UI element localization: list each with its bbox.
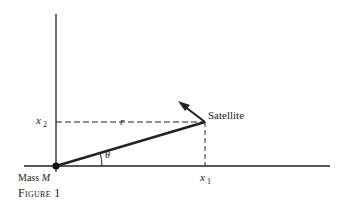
mass-point [52,162,59,169]
x1-label: x1 [200,172,211,183]
diagram-canvas [0,0,345,202]
x2-label: x2 [36,115,47,126]
mass-var: M [42,172,50,183]
x2-var: x [36,114,41,126]
theta-arc [100,153,102,166]
figure-caption: Figure 1 [18,187,61,199]
theta-label: θ [105,150,110,160]
satellite-text: Satellite [208,109,244,121]
x2-sub: 2 [43,120,47,129]
mass-label: Mass M [18,173,50,183]
satellite-label: Satellite [208,110,244,121]
mass-prefix: Mass [18,172,39,183]
x1-sub: 1 [207,177,211,186]
x1-var: x [200,171,205,183]
r-label: r [120,116,124,127]
radius-vector [56,122,205,166]
